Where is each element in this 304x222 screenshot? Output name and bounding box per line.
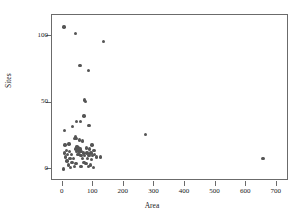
x-tick-label: 600 [240,188,251,195]
x-tick-label: 100 [87,188,98,195]
x-tick-mark [184,181,185,186]
x-tick-mark [245,181,246,186]
data-point [67,142,70,145]
data-point [65,159,68,162]
data-point [70,153,73,156]
data-point [63,143,66,146]
x-tick-mark [123,181,124,186]
data-point [102,40,105,43]
data-point [74,32,77,35]
x-axis-title: Area [0,201,304,210]
x-tick-mark [92,181,93,186]
data-point [88,147,91,150]
plot-area [51,14,288,180]
data-point [90,158,93,161]
x-tick-label: 400 [179,188,190,195]
data-point [92,149,95,152]
x-tick-mark [153,181,154,186]
data-point [75,120,78,123]
data-point [81,157,84,160]
y-axis-title: Sites [4,73,13,88]
x-tick-label: 500 [209,188,220,195]
data-point [92,166,95,169]
data-point [70,161,73,164]
data-point [144,133,147,136]
data-point [78,64,81,67]
data-point [90,143,93,146]
data-point [72,157,75,160]
data-point [87,124,90,127]
data-point [81,139,84,142]
x-tick-label: 300 [148,188,159,195]
data-point [71,125,74,128]
x-tick-label: 0 [60,188,64,195]
x-tick-mark [276,181,277,186]
y-tick-label: 50 [41,98,48,105]
data-point [79,165,82,168]
data-point [63,129,66,132]
data-point [73,165,76,168]
x-tick-label: 200 [118,188,129,195]
scatter-plot-figure: 050100 0100200300400500600700 Sites Area [0,0,304,222]
data-point [87,165,90,168]
data-point [99,155,102,158]
data-point [95,155,98,158]
data-point [79,120,82,123]
data-point [86,157,89,160]
x-tick-label: 700 [271,188,282,195]
data-point [82,114,85,117]
data-point [62,167,65,170]
x-tick-mark [215,181,216,186]
data-point [62,25,65,28]
y-tick-label: 100 [38,32,49,39]
data-points-layer [52,15,287,179]
data-point [261,157,264,160]
y-tick-label: 0 [45,165,49,172]
data-point [64,155,67,158]
data-point [87,69,90,72]
data-point [91,154,94,157]
data-point [84,100,87,103]
data-point [69,166,72,169]
x-tick-mark [62,181,63,186]
